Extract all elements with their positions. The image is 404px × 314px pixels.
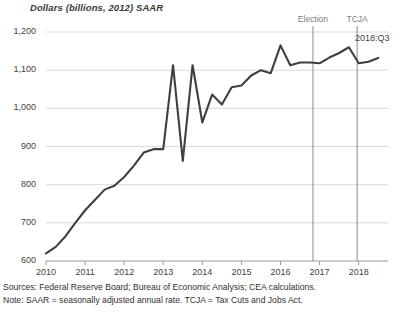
x-tick-label: 2013: [143, 267, 183, 277]
series-line: [46, 45, 378, 253]
election-marker-label: Election: [288, 14, 338, 24]
gridlines: [46, 32, 388, 261]
x-tick-label: 2018: [339, 267, 379, 277]
y-tick-label: 700: [2, 217, 36, 227]
x-tick-label: 2014: [182, 267, 222, 277]
note-footnote: Note: SAAR = seasonally adjusted annual …: [3, 295, 303, 305]
x-tick-label: 2017: [300, 267, 340, 277]
x-tick-label: 2015: [221, 267, 261, 277]
x-tick-label: 2016: [261, 267, 301, 277]
chart-container: Dollars (billions, 2012) SAAR 6007008009…: [0, 0, 404, 314]
x-tick-label: 2011: [65, 267, 105, 277]
endpoint-label: 2018:Q3: [355, 33, 390, 43]
y-tick-label: 800: [2, 179, 36, 189]
x-tick-label: 2010: [26, 267, 66, 277]
sources-footnote: Sources: Federal Reserve Board; Bureau o…: [3, 282, 316, 292]
x-tick-label: 2012: [104, 267, 144, 277]
x-axis: [46, 261, 359, 265]
y-tick-label: 1,200: [2, 26, 36, 36]
event-marker-lines: [313, 26, 357, 261]
y-tick-label: 1,000: [2, 102, 36, 112]
tcja-marker-label: TCJA: [332, 14, 382, 24]
y-tick-label: 900: [2, 141, 36, 151]
data-series: [46, 45, 378, 253]
y-tick-label: 1,100: [2, 64, 36, 74]
y-tick-label: 600: [2, 255, 36, 265]
